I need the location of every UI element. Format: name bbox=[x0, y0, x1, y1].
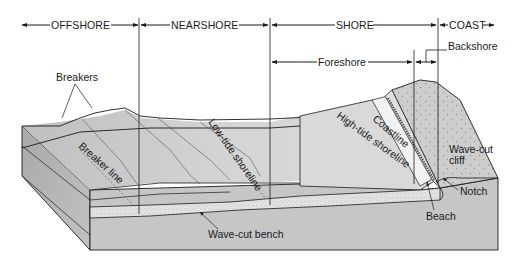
subzone-header: Foreshore Backshore bbox=[272, 40, 498, 68]
zone-label-offshore: OFFSHORE bbox=[51, 19, 110, 31]
zone-label-coast: COAST bbox=[449, 19, 486, 31]
label-breakers: Breakers bbox=[56, 71, 98, 83]
subzone-label-foreshore: Foreshore bbox=[318, 56, 366, 68]
subzone-label-backshore: Backshore bbox=[448, 40, 498, 52]
zone-label-shore: SHORE bbox=[336, 19, 374, 31]
label-notch: Notch bbox=[460, 185, 488, 197]
coastal-zones-diagram: OFFSHORE NEARSHORE SHORE COAST Foreshore… bbox=[0, 0, 514, 265]
label-wave-cut-cliff-line2: cliff bbox=[449, 154, 465, 166]
zone-label-nearshore: NEARSHORE bbox=[171, 19, 238, 31]
label-beach: Beach bbox=[426, 210, 456, 222]
zone-header: OFFSHORE NEARSHORE SHORE COAST bbox=[22, 19, 494, 31]
label-wave-cut-bench: Wave-cut bench bbox=[208, 228, 284, 240]
